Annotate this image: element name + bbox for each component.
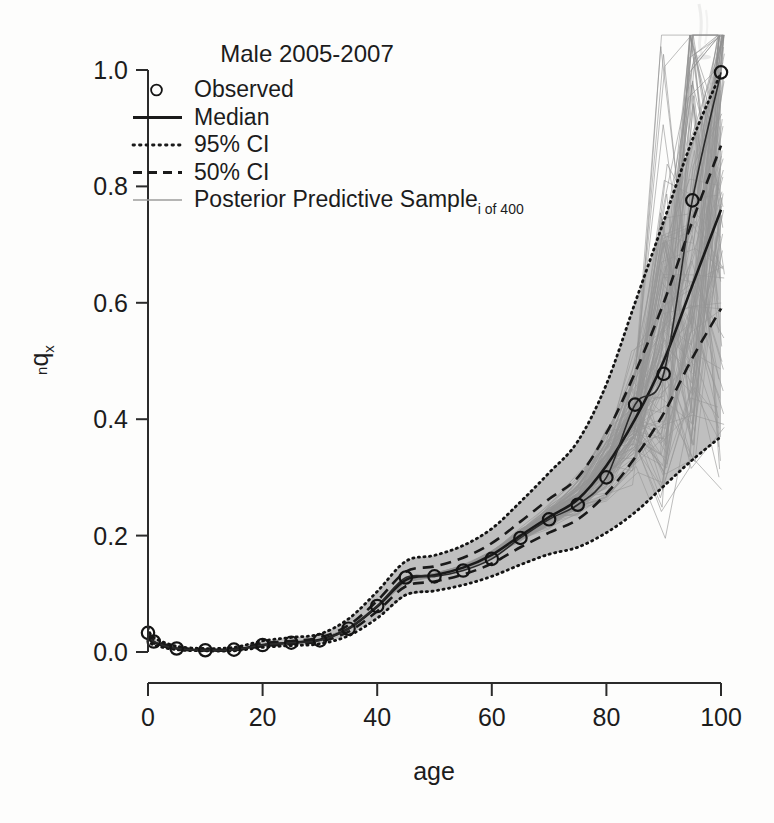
y-tick-label: 0.6 xyxy=(93,289,128,317)
legend-label: Median xyxy=(194,104,269,130)
x-tick-label: 20 xyxy=(249,703,277,731)
legend-label: 95% CI xyxy=(194,131,269,157)
y-tick-label: 1.0 xyxy=(93,56,128,84)
x-tick-label: 0 xyxy=(141,703,155,731)
y-tick-label: 0.2 xyxy=(93,522,128,550)
y-tick-label: 0.8 xyxy=(93,172,128,200)
figure-container: 0.00.20.40.60.81.0 nqx 020406080100 age … xyxy=(0,0,774,823)
legend-label-subscript: i of 400 xyxy=(478,201,524,217)
x-tick-label: 60 xyxy=(478,703,506,731)
x-tick-label: 40 xyxy=(363,703,391,731)
y-axis-title-post: x xyxy=(40,345,57,353)
mortality-chart: 0.00.20.40.60.81.0 nqx 020406080100 age … xyxy=(0,0,774,823)
y-tick-label: 0.0 xyxy=(93,638,128,666)
x-axis-title: age xyxy=(413,757,455,785)
y-axis-title-main: q xyxy=(25,353,53,367)
chart-title: Male 2005-2007 xyxy=(220,40,393,67)
y-tick-label: 0.4 xyxy=(93,405,128,433)
y-axis-title-pre: n xyxy=(33,367,50,375)
x-tick-label: 100 xyxy=(700,703,742,731)
x-tick-label: 80 xyxy=(592,703,620,731)
legend-label: Observed xyxy=(194,76,294,102)
legend-label: 50% CI xyxy=(194,159,269,185)
